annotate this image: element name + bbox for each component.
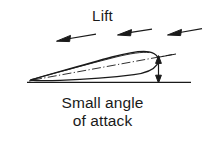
airflow-arrow-left (57, 34, 97, 41)
airfoil-diagram (0, 26, 205, 92)
airflow-arrow-right (168, 29, 203, 36)
angle-of-attack-caption: Small angle of attack (0, 95, 205, 128)
lift-label: Lift (0, 8, 205, 23)
figure-container: Lift Small a (0, 0, 205, 145)
airflow-arrow-middle (118, 29, 153, 36)
airfoil-cross-section (31, 51, 159, 80)
angle-of-attack-arrow (156, 56, 162, 83)
caption-line-2: of attack (0, 113, 205, 129)
caption-line-1: Small angle (0, 95, 205, 111)
